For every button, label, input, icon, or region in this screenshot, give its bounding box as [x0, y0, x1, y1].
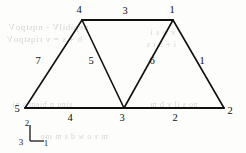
member-label-3: 3	[122, 5, 127, 16]
node-label-2: 2	[227, 105, 232, 116]
node-label-1: 1	[169, 4, 174, 15]
member-labels-group: 3756142	[35, 5, 204, 123]
axis-label-2: 2	[25, 118, 30, 128]
member-label-1: 1	[199, 55, 204, 66]
coordinate-triad-icon: 213	[19, 118, 49, 148]
truss-diagram: 41532 3756142 213	[0, 0, 246, 153]
node-label-5: 5	[14, 103, 19, 114]
member-label-7: 7	[35, 55, 40, 66]
member-7	[25, 20, 82, 108]
axis-label-1: 1	[44, 138, 49, 148]
member-label-5: 5	[88, 55, 93, 66]
member-label-2: 2	[172, 112, 177, 123]
axis-label-3: 3	[19, 137, 24, 147]
member-label-4: 4	[67, 112, 73, 123]
node-label-4: 4	[76, 4, 82, 15]
members-group	[25, 20, 224, 108]
member-label-6: 6	[149, 55, 154, 66]
figure-canvas: nepibilV - nqstpoVh + s = v riqstpoVv w …	[0, 0, 246, 153]
node-label-3: 3	[119, 112, 124, 123]
